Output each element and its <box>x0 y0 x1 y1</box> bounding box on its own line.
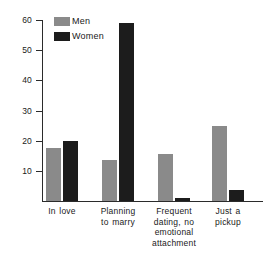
bar-men <box>102 160 117 201</box>
bar-chart: 102030405060 Men Women In lovePlanningto… <box>0 0 273 262</box>
y-axis-tick-label: 60 <box>10 16 32 25</box>
bar-men <box>158 154 173 201</box>
bar-men <box>46 148 61 201</box>
y-axis-tick-label: 10 <box>10 167 32 176</box>
bar-group <box>212 20 244 201</box>
y-axis-tick-label: 30 <box>10 107 32 116</box>
y-axis-tick-label: 50 <box>10 46 32 55</box>
y-axis-tick-label: 40 <box>10 76 32 85</box>
bar-women <box>175 198 190 201</box>
bar-men <box>212 126 227 201</box>
bar-women <box>229 190 244 201</box>
x-axis-line <box>42 201 263 202</box>
bar-group <box>102 20 134 201</box>
plot-area <box>42 20 262 201</box>
bar-women <box>63 141 78 201</box>
x-axis-label: Just apickup <box>194 206 262 227</box>
bar-group <box>46 20 78 201</box>
y-axis-tick-label: 20 <box>10 137 32 146</box>
bar-group <box>158 20 190 201</box>
bar-women <box>119 23 134 201</box>
